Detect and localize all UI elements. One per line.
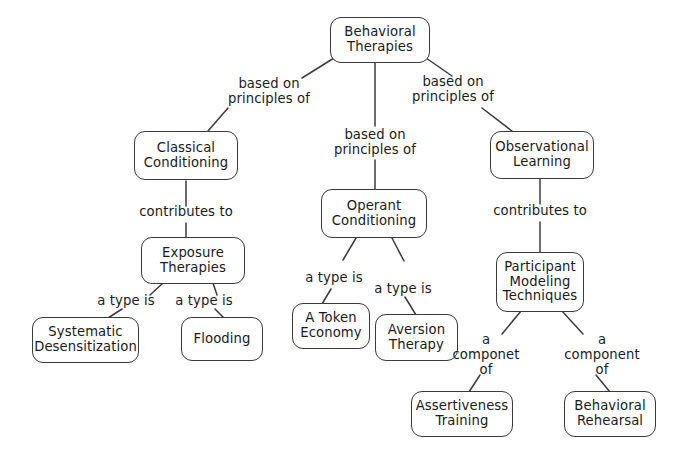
node-label: Operant Conditioning [328, 199, 421, 229]
edge-label-a-type-is-systematic: a type is [93, 294, 159, 309]
node-label: Flooding [190, 332, 255, 347]
node-operant-conditioning[interactable]: Operant Conditioning [321, 189, 427, 238]
node-behavioral-therapies[interactable]: Behavioral Therapies [330, 17, 430, 63]
concept-map-canvas: Behavioral Therapies Classical Condition… [0, 0, 683, 464]
edge-left-label-to-classical [208, 108, 228, 131]
edge-componet-to-assertiveness [469, 375, 480, 392]
node-a-token-economy[interactable]: A Token Economy [292, 303, 370, 349]
node-assertiveness-training[interactable]: Assertiveness Training [411, 391, 513, 437]
node-systematic-desensitization[interactable]: Systematic Desensitization [32, 317, 139, 363]
node-flooding[interactable]: Flooding [181, 317, 263, 361]
edge-label-based-on-principles-of-left: based on principles of [214, 77, 324, 107]
node-label: A Token Economy [296, 311, 365, 341]
edge-operant-to-type-token [343, 238, 356, 260]
edge-right-label-to-observational [482, 108, 512, 131]
edge-operant-to-type-aversion [392, 238, 404, 261]
node-label: Observational Learning [491, 140, 592, 170]
node-participant-modeling-techniques[interactable]: Participant Modeling Techniques [496, 252, 584, 312]
edge-label-based-on-principles-of-right: based on principles of [398, 75, 508, 105]
edge-label-a-type-is-flooding: a type is [171, 294, 237, 309]
edge-label-contributes-to-right: contributes to [478, 204, 602, 219]
edge-type-aversion-to-therapy [405, 297, 416, 315]
node-label: Systematic Desensitization [30, 325, 141, 355]
edge-type-token-to-economy [322, 289, 331, 304]
edge-label-based-on-principles-of-middle: based on principles of [320, 128, 430, 158]
node-exposure-therapies[interactable]: Exposure Therapies [141, 237, 245, 284]
node-classical-conditioning[interactable]: Classical Conditioning [134, 131, 238, 180]
node-label: Behavioral Rehearsal [570, 399, 649, 429]
edge-label-a-type-is-aversion-therapy: a type is [370, 282, 436, 297]
edge-label-a-componet-of-assertiveness: a componet of [441, 333, 531, 377]
node-observational-learning[interactable]: Observational Learning [490, 131, 594, 179]
edge-participant-to-componet [502, 311, 521, 334]
edge-label-a-type-is-token-economy: a type is [301, 271, 367, 286]
node-label: Classical Conditioning [140, 141, 233, 171]
node-label: Assertiveness Training [412, 399, 513, 429]
edge-participant-to-component [562, 311, 583, 334]
node-label: Behavioral Therapies [340, 25, 419, 55]
node-label: Aversion Therapy [384, 323, 449, 353]
edge-label-a-component-of-rehearsal: a component of [555, 333, 649, 377]
edge-bt-to-left-label [302, 58, 334, 78]
edge-label-contributes-to-left: contributes to [124, 205, 248, 220]
node-label: Exposure Therapies [156, 246, 230, 276]
node-behavioral-rehearsal[interactable]: Behavioral Rehearsal [564, 391, 656, 437]
edge-component-to-rehearsal [596, 375, 610, 392]
node-label: Participant Modeling Techniques [499, 260, 581, 304]
